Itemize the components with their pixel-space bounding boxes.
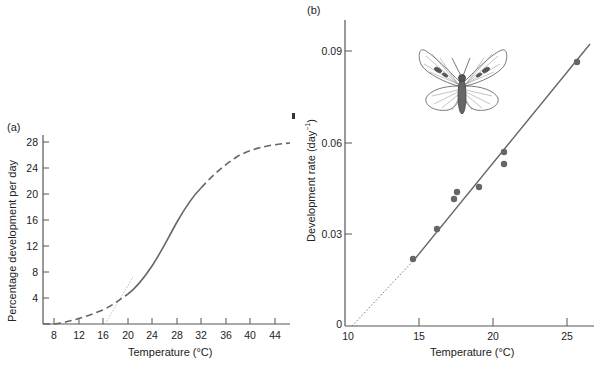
chart-b-xtick: 15 <box>409 330 429 342</box>
chart-b-ytick: 0 <box>330 318 342 330</box>
chart-a-curve-high-dashed <box>201 143 290 188</box>
chart-a-ytick: 8 <box>22 266 38 278</box>
data-point <box>434 226 440 232</box>
chart-a-x-label: Temperature (°C) <box>128 346 212 358</box>
chart-a-ytick: 4 <box>22 292 38 304</box>
chart-a-xtick: 28 <box>167 329 187 341</box>
chart-b-ytick: 0.09 <box>312 45 342 57</box>
chart-a-xtick: 24 <box>142 329 162 341</box>
chart-a-ytick: 20 <box>22 188 38 200</box>
chart-a-plot <box>0 0 594 367</box>
chart-b-xtick: 20 <box>483 330 503 342</box>
chart-a-xtick: 40 <box>240 329 260 341</box>
chart-b-extrapolation-line <box>352 260 414 326</box>
chart-a-x-ticks <box>54 318 275 324</box>
chart-a-xtick: 16 <box>93 329 113 341</box>
chart-a-y-ticks <box>43 142 49 298</box>
chart-a-ytick: 28 <box>22 136 38 148</box>
data-point <box>476 184 482 190</box>
chart-a-xtick: 20 <box>118 329 138 341</box>
chart-a-curve-solid <box>128 188 201 294</box>
data-point <box>501 161 507 167</box>
chart-b-y-label-end: ) <box>305 119 317 123</box>
chart-a-xtick: 44 <box>265 329 285 341</box>
data-point <box>501 149 507 155</box>
mark <box>292 113 295 119</box>
chart-a-curve-low-dashed <box>43 294 128 324</box>
chart-b-x-label: Temperature (°C) <box>430 346 514 358</box>
chart-b-x-ticks <box>419 318 567 326</box>
chart-a-xtick: 8 <box>44 329 64 341</box>
chart-a-xtick: 36 <box>216 329 236 341</box>
chart-b-y-label-main: Development rate (day <box>305 131 317 242</box>
chart-a-ytick: 12 <box>22 240 38 252</box>
data-point <box>454 189 460 195</box>
chart-b-y-label-sup: −1 <box>304 123 311 131</box>
data-point <box>574 59 580 65</box>
chart-a-y-label: Percentage development per day <box>6 160 18 322</box>
chart-b-y-ticks <box>345 51 352 234</box>
chart-a-xtick: 12 <box>69 329 89 341</box>
data-point <box>451 196 457 202</box>
chart-b-xtick: 10 <box>338 330 358 342</box>
data-point <box>410 256 416 262</box>
chart-b-xtick: 25 <box>557 330 577 342</box>
chart-a-ytick: 16 <box>22 214 38 226</box>
butterfly-illustration <box>419 50 507 114</box>
chart-a-ytick: 24 <box>22 162 38 174</box>
chart-b-y-label: Development rate (day−1) <box>304 119 317 242</box>
chart-a-xtick: 32 <box>191 329 211 341</box>
